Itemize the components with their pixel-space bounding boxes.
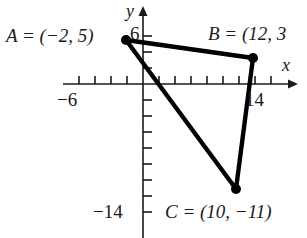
point-a-label: A = (−2, 5) <box>6 26 94 45</box>
point-c-marker <box>231 184 241 194</box>
x-axis-arrowhead <box>288 80 298 89</box>
x-axis <box>63 76 298 89</box>
y-axis-name: y <box>126 2 134 20</box>
point-c-label: C = (10, −11) <box>165 202 272 221</box>
y-axis-tick-label-neg14: −14 <box>93 202 123 221</box>
x-axis-tick-label-14: 14 <box>245 90 264 109</box>
point-b-label: B = (12, 3 <box>208 24 286 43</box>
y-axis-tick-label-6: 6 <box>130 24 140 43</box>
y-axis-arrowhead <box>139 6 148 16</box>
triangle-outline <box>126 40 253 189</box>
x-axis-ticks <box>79 76 271 84</box>
x-axis-tick-label-neg6: −6 <box>57 90 77 109</box>
x-axis-name: x <box>282 56 290 74</box>
point-b-marker <box>248 53 258 63</box>
triangle-abc <box>126 40 253 189</box>
coordinate-plane-figure: A = (−2, 5) B = (12, 3 C = (10, −11) 6 −… <box>0 0 307 238</box>
